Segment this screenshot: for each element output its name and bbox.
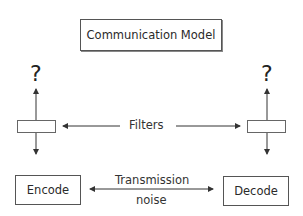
decode-label: Decode: [234, 184, 278, 198]
right-filter-box: [247, 120, 286, 133]
left-question-mark: ?: [30, 63, 42, 85]
filters-label: Filters: [129, 118, 163, 132]
left-filter-box: [17, 120, 56, 133]
encode-label: Encode: [27, 183, 69, 197]
title-box: Communication Model: [80, 19, 222, 51]
noise-label: noise: [136, 193, 167, 207]
decode-box: Decode: [223, 176, 289, 206]
diagram-title: Communication Model: [87, 28, 216, 42]
encode-box: Encode: [15, 175, 81, 205]
transmission-label: Transmission: [115, 173, 189, 187]
right-question-mark: ?: [261, 63, 273, 85]
